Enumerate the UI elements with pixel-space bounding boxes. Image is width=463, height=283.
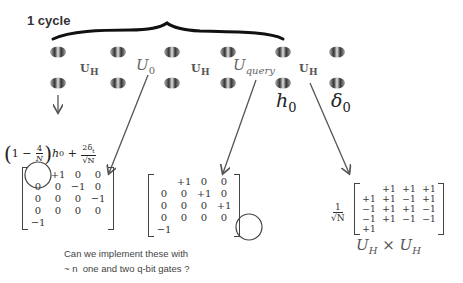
matrix-uh-x-uh: +1+1+1+1 +1−1+1−1 +1+1−1−1 +1−1−1+1: [354, 183, 444, 235]
product-label: UH × UH: [356, 236, 421, 256]
bracket-left: [354, 183, 360, 235]
bracket-right: [108, 167, 114, 230]
gate-uh-3: UH: [299, 62, 318, 77]
atoms: [0, 0, 463, 100]
amplitude-formula: ( 1 − 4N ) h0 + 2δt√N: [4, 143, 97, 165]
label-delta0: δ0: [331, 89, 351, 115]
fraction-4-over-n: 4N: [36, 144, 43, 163]
bracket-right: [234, 174, 240, 237]
matrix-u0: +1000 0−100 00−10 000−1: [22, 167, 114, 230]
paren-open: (: [4, 144, 12, 164]
label-h0: h0: [276, 89, 297, 115]
atom-row-bottom: [50, 78, 345, 89]
gate-uquery: Uquery: [233, 56, 275, 76]
gate-uh-1: UH: [80, 62, 99, 77]
fraction-2delta-over-sqrtn: 2δt√N: [81, 143, 95, 165]
scale-factor: 1 √N: [331, 202, 345, 224]
question-line-1: Can we implement these with: [64, 246, 189, 261]
matrix-uquery: +1000 0+100 00+10 000−1: [148, 174, 240, 237]
question-line-2: ~ n one and two q-bit gates ?: [64, 261, 189, 276]
bracket-right: [438, 183, 444, 235]
paren-close: ): [44, 144, 52, 164]
question-text: Can we implement these with ~ n one and …: [64, 246, 189, 276]
gate-u0: U0: [136, 56, 155, 76]
bracket-left: [22, 167, 28, 230]
atom-row-top: [50, 47, 345, 58]
bracket-left: [148, 174, 154, 237]
gate-uh-2: UH: [191, 62, 210, 77]
